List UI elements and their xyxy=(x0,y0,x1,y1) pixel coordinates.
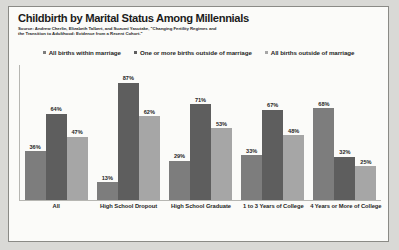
bar-slot: 25% xyxy=(355,65,376,200)
bar-slot: 67% xyxy=(262,65,283,200)
bar-value-label: 13% xyxy=(102,175,113,181)
bar-group: 13%87%62% xyxy=(92,65,164,200)
bar[interactable]: 62% xyxy=(139,116,160,200)
page-title: Childbirth by Marital Status Among Mille… xyxy=(18,12,380,24)
bar-slot: 48% xyxy=(283,65,304,200)
legend-item-2[interactable]: One or more births outside of marriage xyxy=(134,49,252,56)
bar[interactable]: 64% xyxy=(46,114,67,200)
bar-group: 29%71%53% xyxy=(164,65,236,200)
bar-value-label: 47% xyxy=(71,129,82,135)
legend-item-1[interactable]: All births within marriage xyxy=(43,49,121,56)
bar-slot: 87% xyxy=(118,65,139,200)
bar-group: 68%32%25% xyxy=(309,65,381,200)
x-axis-label: All xyxy=(20,203,92,210)
bar-slot: 64% xyxy=(46,65,67,200)
bar-value-label: 29% xyxy=(174,153,185,159)
bar-slot: 32% xyxy=(334,65,355,200)
bar-value-label: 53% xyxy=(216,121,227,127)
legend-item-3[interactable]: All births outside of marriage xyxy=(265,49,355,56)
bar[interactable]: 25% xyxy=(355,166,376,200)
plot-area: 36%64%47%13%87%62%29%71%53%33%67%48%68%3… xyxy=(19,65,381,201)
bar-value-label: 68% xyxy=(318,101,329,107)
bar[interactable]: 32% xyxy=(334,157,355,200)
chart-card: Childbirth by Marital Status Among Mille… xyxy=(8,6,389,242)
bar-value-label: 36% xyxy=(29,144,40,150)
bar[interactable]: 68% xyxy=(313,108,334,200)
x-axis-labels: AllHigh School DropoutHigh School Gradua… xyxy=(20,203,382,210)
bar-value-label: 71% xyxy=(195,97,206,103)
bar-slot: 53% xyxy=(211,65,232,200)
bar-slot: 71% xyxy=(190,65,211,200)
x-axis-label: High School Dropout xyxy=(92,203,164,210)
bar[interactable]: 53% xyxy=(211,128,232,200)
x-axis-label: High School Graduate xyxy=(165,203,237,210)
bar-slot: 36% xyxy=(25,65,46,200)
legend-label: One or more births outside of marriage xyxy=(140,49,252,56)
bar-group: 33%67%48% xyxy=(237,65,309,200)
bar-value-label: 62% xyxy=(144,109,155,115)
bar-slot: 68% xyxy=(313,65,334,200)
legend-label: All births within marriage xyxy=(49,49,121,56)
bar-slot: 62% xyxy=(139,65,160,200)
bar[interactable]: 71% xyxy=(190,104,211,200)
chart-header: Childbirth by Marital Status Among Mille… xyxy=(18,12,380,37)
bar-slot: 13% xyxy=(97,65,118,200)
bar[interactable]: 13% xyxy=(97,182,118,200)
bar[interactable]: 87% xyxy=(118,83,139,200)
bar[interactable]: 48% xyxy=(283,135,304,200)
bar-slot: 47% xyxy=(67,65,88,200)
x-axis-line xyxy=(19,200,381,201)
bar-value-label: 64% xyxy=(50,106,61,112)
source-note: Source: Andrew Cherlin, Elizabeth Talber… xyxy=(18,26,218,37)
bar[interactable]: 47% xyxy=(67,137,88,200)
x-axis-label: 4 Years or More of College xyxy=(310,203,382,210)
bar-value-label: 67% xyxy=(267,102,278,108)
bar[interactable]: 33% xyxy=(241,155,262,200)
legend-swatch-icon xyxy=(43,51,47,55)
x-axis-label: 1 to 3 Years of College xyxy=(237,203,309,210)
bar-value-label: 33% xyxy=(246,148,257,154)
bar-value-label: 25% xyxy=(360,159,371,165)
bar[interactable]: 29% xyxy=(169,161,190,200)
bar[interactable]: 67% xyxy=(262,110,283,200)
legend-label: All births outside of marriage xyxy=(271,49,355,56)
bar-group: 36%64%47% xyxy=(20,65,92,200)
bar-groups: 36%64%47%13%87%62%29%71%53%33%67%48%68%3… xyxy=(20,65,381,200)
bar-value-label: 87% xyxy=(123,75,134,81)
bar-slot: 29% xyxy=(169,65,190,200)
legend-swatch-icon xyxy=(134,51,138,55)
legend-swatch-icon xyxy=(265,51,269,55)
bar-value-label: 48% xyxy=(288,128,299,134)
bar[interactable]: 36% xyxy=(25,151,46,200)
bar-slot: 33% xyxy=(241,65,262,200)
bar-value-label: 32% xyxy=(339,149,350,155)
chart-legend: All births within marriageOne or more bi… xyxy=(9,49,388,56)
